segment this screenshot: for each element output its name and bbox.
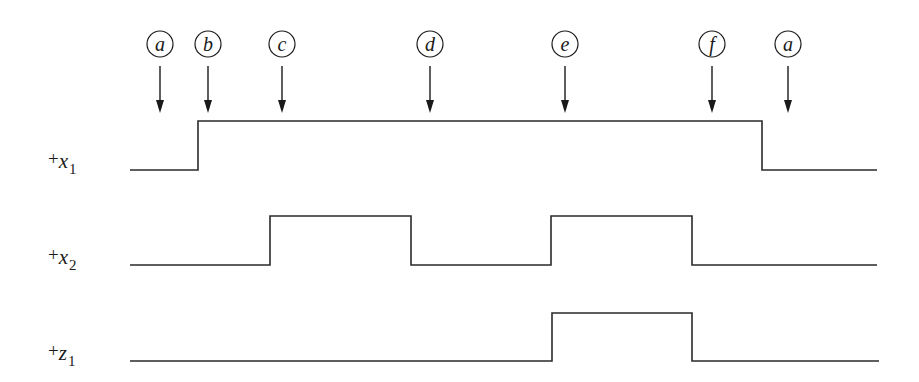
down-arrow-icon xyxy=(708,100,716,113)
signal-label: +x2 xyxy=(48,244,77,273)
waveform-x2 xyxy=(130,216,877,265)
marker-label: d xyxy=(425,33,436,55)
signal-label: +z1 xyxy=(48,340,75,369)
waveform-z1 xyxy=(130,313,879,361)
down-arrow-icon xyxy=(426,100,434,113)
state-markers: abcdefa xyxy=(147,31,801,113)
signal-x1: +x1 xyxy=(48,121,877,177)
signal-z1: +z1 xyxy=(48,313,879,369)
marker-label: f xyxy=(709,33,717,56)
state-marker: a xyxy=(147,31,173,113)
state-marker: a xyxy=(775,31,801,113)
state-marker: b xyxy=(195,31,221,113)
down-arrow-icon xyxy=(156,100,164,113)
marker-label: e xyxy=(561,33,570,55)
state-marker: d xyxy=(417,31,443,113)
waveform-x1 xyxy=(130,121,877,170)
timing-diagram: abcdefa +x1+x2+z1 xyxy=(0,0,919,382)
marker-label: b xyxy=(203,33,213,55)
down-arrow-icon xyxy=(561,100,569,113)
marker-label: c xyxy=(278,33,287,55)
signal-x2: +x2 xyxy=(48,216,877,273)
down-arrow-icon xyxy=(784,100,792,113)
state-marker: e xyxy=(552,31,578,113)
signal-waveforms: +x1+x2+z1 xyxy=(48,121,879,369)
state-marker: c xyxy=(269,31,295,113)
marker-label: a xyxy=(783,33,793,55)
down-arrow-icon xyxy=(278,100,286,113)
state-marker: f xyxy=(699,31,725,113)
marker-label: a xyxy=(155,33,165,55)
down-arrow-icon xyxy=(204,100,212,113)
signal-label: +x1 xyxy=(48,148,77,177)
